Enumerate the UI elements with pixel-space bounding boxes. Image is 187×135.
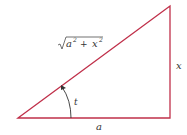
hypotenuse-plus: + [80,39,88,49]
angle-arc [62,87,71,118]
angle-label: t [74,97,78,107]
hypotenuse-x: x [92,38,98,49]
hypotenuse-x-exp: 2 [98,36,103,43]
right-triangle-diagram: a 2 + x 2 x a t [0,0,187,135]
vertical-side-label: x [176,60,182,71]
base-side-label: a [96,121,102,132]
triangle [18,6,170,118]
hypotenuse-a: a [66,38,72,49]
hypotenuse-a-exp: 2 [72,36,77,43]
